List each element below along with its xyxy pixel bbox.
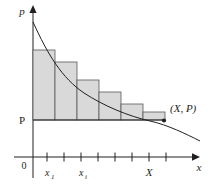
- riemann-bar: [99, 92, 121, 120]
- point-annotation: (X, P): [170, 102, 197, 115]
- y-axis-label: p: [18, 5, 25, 17]
- figure-container: p x 0 P x 1 x i X (X, P): [0, 0, 210, 187]
- riemann-bar: [55, 62, 77, 120]
- x-tick-label-ith-base: x: [78, 167, 84, 178]
- x-tick-label-ith: x i: [78, 167, 87, 181]
- price-axis-label: P: [19, 114, 25, 126]
- riemann-bar: [33, 50, 55, 120]
- x-tick-label-first-base: x: [44, 167, 50, 178]
- riemann-sum-diagram: p x 0 P x 1 x i X (X, P): [0, 0, 210, 187]
- x-axis-label: x: [196, 161, 202, 173]
- x-axis-arrowhead: [192, 153, 200, 160]
- origin-label: 0: [22, 160, 27, 171]
- x-tick-label-first-subscript: 1: [51, 173, 55, 181]
- riemann-bar: [143, 112, 165, 120]
- y-axis-arrowhead: [29, 5, 36, 13]
- x-tick-label-ith-subscript: i: [85, 173, 87, 181]
- x-tick-label-first: x 1: [44, 167, 55, 181]
- marked-point: [162, 118, 166, 122]
- x-tick-label-upper: X: [145, 166, 154, 178]
- riemann-bar: [121, 104, 143, 120]
